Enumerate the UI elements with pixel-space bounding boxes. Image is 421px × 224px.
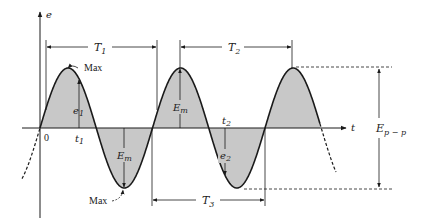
dashed-wave-right — [320, 124, 336, 172]
e-axis-label: e — [46, 9, 52, 20]
origin-label: 0 — [44, 132, 49, 143]
t-axis-label: t — [351, 122, 356, 133]
max-top-label: Max — [84, 62, 102, 73]
dashed-wave-left — [22, 128, 40, 179]
max-bottom-label: Max — [89, 195, 107, 206]
t1-label: T1 — [94, 41, 106, 56]
t1-point-label: t1 — [75, 133, 84, 146]
t2-label: T2 — [228, 41, 240, 56]
t3-label: T3 — [202, 194, 214, 209]
sine-waveform-diagram: t e 0 T1 T2 T3 Max e1 t1 Em Max Em t2 e2… — [0, 0, 421, 224]
max-bottom-leader — [112, 190, 123, 201]
epp-label: Ep − p — [375, 122, 406, 137]
t2-point-label: t2 — [222, 115, 231, 128]
